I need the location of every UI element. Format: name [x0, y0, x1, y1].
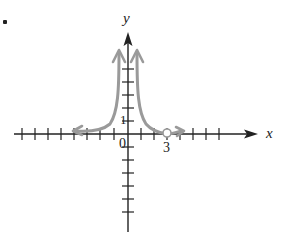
- chart-canvas: [0, 0, 292, 241]
- open-circle-hole: [163, 129, 171, 137]
- graph-figure: y x 0 1 3: [0, 0, 292, 241]
- origin-label: 0: [119, 137, 126, 151]
- right-branch-curve: [137, 54, 181, 134]
- left-branch-curve: [76, 54, 119, 131]
- y-axis-label: y: [123, 11, 130, 26]
- x-axis: [14, 128, 258, 140]
- x-axis-label: x: [266, 126, 273, 141]
- y-tick-label-1: 1: [120, 113, 127, 126]
- x-tick-label-3: 3: [163, 141, 170, 155]
